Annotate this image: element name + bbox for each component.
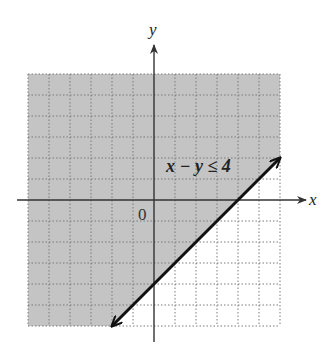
inequality-graph: x y 0 x − y ≤ 4 xyxy=(0,0,335,354)
x-axis-label: x xyxy=(308,190,317,209)
y-axis-label: y xyxy=(147,20,157,39)
origin-label: 0 xyxy=(138,205,147,224)
inequality-label: x − y ≤ 4 xyxy=(165,156,231,176)
